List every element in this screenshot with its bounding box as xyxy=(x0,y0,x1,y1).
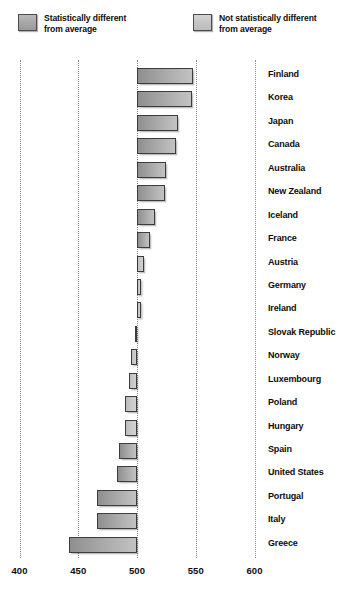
bar-canada xyxy=(137,138,176,154)
bar-germany xyxy=(137,279,141,295)
bar-italy xyxy=(97,513,137,529)
chart-row: Canada xyxy=(0,135,345,158)
chart-row: Spain xyxy=(0,440,345,463)
chart-row: Finland xyxy=(0,65,345,88)
category-label-japan: Japan xyxy=(268,116,293,126)
chart-row: Luxembourg xyxy=(0,370,345,393)
bar-slovak-republic xyxy=(135,326,137,342)
category-label-finland: Finland xyxy=(268,69,299,79)
chart-legend: Statistically different from average Not… xyxy=(0,0,345,56)
chart-plot-area: FinlandKoreaJapanCanadaAustraliaNew Zeal… xyxy=(0,60,345,565)
category-label-slovak-republic: Slovak Republic xyxy=(268,327,335,337)
x-tick-label-500: 500 xyxy=(129,565,145,576)
category-label-new-zealand: New Zealand xyxy=(268,186,321,196)
legend-label-not-statistically-different: Not statistically different from average xyxy=(219,13,317,36)
chart-row: Poland xyxy=(0,393,345,416)
chart-row: Greece xyxy=(0,534,345,557)
x-tick-label-550: 550 xyxy=(188,565,204,576)
category-label-norway: Norway xyxy=(268,350,300,360)
legend-label-statistically-different: Statistically different from average xyxy=(44,13,126,36)
legend-item-not-statistically-different: Not statistically different from average xyxy=(193,13,317,36)
chart-row: New Zealand xyxy=(0,182,345,205)
category-label-australia: Australia xyxy=(268,163,305,173)
chart-row: Korea xyxy=(0,88,345,111)
chart-row: Australia xyxy=(0,159,345,182)
chart-row: Japan xyxy=(0,112,345,135)
category-label-austria: Austria xyxy=(268,257,298,267)
bar-greece xyxy=(69,537,137,553)
category-label-france: France xyxy=(268,233,297,243)
bar-finland xyxy=(137,68,193,84)
bar-hungary xyxy=(125,420,137,436)
category-label-greece: Greece xyxy=(268,538,298,548)
chart-row: France xyxy=(0,229,345,252)
bar-france xyxy=(137,232,150,248)
bar-luxembourg xyxy=(129,373,137,389)
bar-iceland xyxy=(137,209,155,225)
bar-spain xyxy=(119,443,137,459)
x-tick-label-600: 600 xyxy=(247,565,263,576)
bar-norway xyxy=(131,349,137,365)
legend-swatch-statistically-different-icon xyxy=(18,14,37,31)
chart-row: Slovak Republic xyxy=(0,323,345,346)
bar-new-zealand xyxy=(137,185,165,201)
chart-row: Germany xyxy=(0,276,345,299)
legend-swatch-not-statistically-different-icon xyxy=(193,14,212,31)
category-label-spain: Spain xyxy=(268,444,292,454)
chart-row: Ireland xyxy=(0,299,345,322)
category-label-germany: Germany xyxy=(268,280,306,290)
category-label-italy: Italy xyxy=(268,514,285,524)
category-label-canada: Canada xyxy=(268,139,300,149)
category-label-iceland: Iceland xyxy=(268,210,298,220)
bar-united-states xyxy=(117,466,137,482)
category-label-portugal: Portugal xyxy=(268,491,303,501)
chart-row: United States xyxy=(0,463,345,486)
chart-row: Italy xyxy=(0,510,345,533)
bar-korea xyxy=(137,91,192,107)
x-tick-label-450: 450 xyxy=(70,565,86,576)
category-label-hungary: Hungary xyxy=(268,421,303,431)
bar-austria xyxy=(137,256,144,272)
category-label-ireland: Ireland xyxy=(268,303,296,313)
chart-row: Portugal xyxy=(0,487,345,510)
category-label-korea: Korea xyxy=(268,92,293,102)
chart-bar-rows: FinlandKoreaJapanCanadaAustraliaNew Zeal… xyxy=(0,65,345,557)
bar-poland xyxy=(125,396,137,412)
bar-ireland xyxy=(137,302,141,318)
x-tick-label-400: 400 xyxy=(12,565,28,576)
bar-australia xyxy=(137,162,166,178)
chart-row: Austria xyxy=(0,253,345,276)
category-label-poland: Poland xyxy=(268,397,297,407)
bar-japan xyxy=(137,115,178,131)
legend-item-statistically-different: Statistically different from average xyxy=(18,13,126,36)
category-label-luxembourg: Luxembourg xyxy=(268,374,321,384)
chart-row: Norway xyxy=(0,346,345,369)
chart-x-axis: 400450500550600 xyxy=(0,565,345,587)
bar-portugal xyxy=(97,490,137,506)
category-label-united-states: United States xyxy=(268,467,324,477)
chart-row: Iceland xyxy=(0,206,345,229)
chart-row: Hungary xyxy=(0,417,345,440)
